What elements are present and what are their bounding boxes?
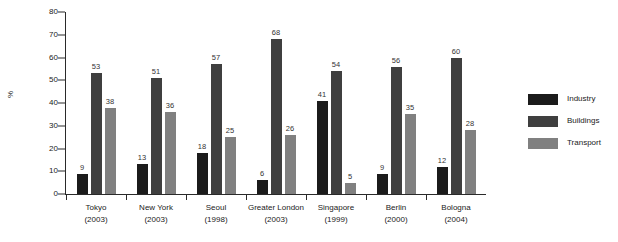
x-axis-category-label: Tokyo(2003) (84, 202, 107, 226)
bar-buildings[interactable]: 60 (451, 58, 462, 195)
bar-value-label: 28 (466, 120, 474, 128)
bar-buildings[interactable]: 54 (331, 71, 342, 194)
x-axis-tick-mark (426, 195, 427, 200)
x-axis-category-labels: Tokyo(2003)New York(2003)Seoul(1998)Grea… (66, 202, 486, 238)
bar-transport[interactable]: 25 (225, 137, 236, 194)
x-axis-category-label: New York(2003) (139, 202, 173, 226)
category-year: (2004) (441, 214, 470, 226)
y-axis-tick-label: 50 (22, 76, 58, 84)
category-year: (2000) (384, 214, 407, 226)
y-axis-tick-label: 0 (22, 190, 58, 198)
bar-value-label: 5 (348, 173, 352, 181)
bar-buildings[interactable]: 53 (91, 73, 102, 194)
y-axis-tick-label: 70 (22, 31, 58, 39)
bar-group: 41545 (317, 12, 356, 194)
x-axis-tick-mark (246, 195, 247, 200)
bar-industry[interactable]: 9 (77, 174, 88, 194)
x-axis-category-label: Bologna(2004) (441, 202, 470, 226)
y-axis-tick-mark (58, 57, 65, 58)
legend-swatch-icon (528, 138, 558, 149)
bar-value-label: 57 (212, 54, 220, 62)
x-axis-category-label: Seoul(1998) (204, 202, 227, 226)
category-year: (2003) (84, 214, 107, 226)
y-axis-tick-mark (58, 34, 65, 35)
y-axis-tick-mark (58, 80, 65, 81)
bar-buildings[interactable]: 57 (211, 64, 222, 194)
bar-transport[interactable]: 35 (405, 114, 416, 194)
legend-label: Transport (567, 138, 601, 148)
bar-value-label: 38 (106, 98, 114, 106)
bar-buildings[interactable]: 68 (271, 39, 282, 194)
category-name: Tokyo (84, 202, 107, 214)
bar-industry[interactable]: 9 (377, 174, 388, 194)
legend-item-buildings[interactable]: Buildings (528, 110, 614, 132)
y-axis-tick-mark (58, 12, 65, 13)
bar-value-label: 68 (272, 29, 280, 37)
category-year: (1999) (318, 214, 354, 226)
bar-industry[interactable]: 6 (257, 180, 268, 194)
y-axis-tick-mark (58, 125, 65, 126)
legend-item-industry[interactable]: Industry (528, 88, 614, 110)
bar-value-label: 60 (452, 48, 460, 56)
category-name: Greater London (248, 202, 304, 214)
bar-industry[interactable]: 41 (317, 101, 328, 194)
bar-group: 135136 (137, 12, 176, 194)
category-name: New York (139, 202, 173, 214)
y-axis-tick-mark (58, 103, 65, 104)
category-name: Berlin (384, 202, 407, 214)
bar-industry[interactable]: 12 (437, 167, 448, 194)
bar-industry[interactable]: 13 (137, 164, 148, 194)
bar-value-label: 51 (152, 68, 160, 76)
y-axis-tick-label: 60 (22, 54, 58, 62)
bar-buildings[interactable]: 56 (391, 67, 402, 194)
legend-swatch-icon (528, 94, 558, 105)
bar-group: 66826 (257, 12, 296, 194)
legend-label: Buildings (567, 116, 599, 126)
bar-value-label: 35 (406, 104, 414, 112)
x-axis-tick-mark (366, 195, 367, 200)
bar-transport[interactable]: 28 (465, 130, 476, 194)
y-axis-tick-label: 80 (22, 8, 58, 16)
legend-item-transport[interactable]: Transport (528, 132, 614, 154)
x-axis-tick-mark (66, 195, 67, 200)
x-axis-category-label: Singapore(1999) (318, 202, 354, 226)
x-axis-tick-mark (186, 195, 187, 200)
bar-value-label: 54 (332, 61, 340, 69)
bar-industry[interactable]: 18 (197, 153, 208, 194)
bar-value-label: 18 (198, 143, 206, 151)
category-name: Bologna (441, 202, 470, 214)
x-axis-tick-mark (126, 195, 127, 200)
legend-label: Industry (567, 94, 595, 104)
x-axis-tick-mark (306, 195, 307, 200)
bar-buildings[interactable]: 51 (151, 78, 162, 194)
bar-group: 126028 (437, 12, 476, 194)
bar-transport[interactable]: 38 (105, 108, 116, 194)
category-year: (1998) (204, 214, 227, 226)
y-axis-title: % (6, 91, 15, 98)
x-axis-line (65, 194, 486, 195)
category-year: (2003) (139, 214, 173, 226)
bar-value-label: 13 (138, 154, 146, 162)
bar-value-label: 53 (92, 63, 100, 71)
chart-legend: IndustryBuildingsTransport (528, 88, 614, 154)
bar-value-label: 25 (226, 127, 234, 135)
category-year: (2003) (248, 214, 304, 226)
bar-value-label: 6 (260, 170, 264, 178)
y-axis-tick-mark (58, 171, 65, 172)
x-axis-category-label: Greater London(2003) (248, 202, 304, 226)
plot-area: 95338135136185725668264154595635126028 (66, 12, 486, 194)
y-axis-tick-label: 10 (22, 167, 58, 175)
bar-group: 95635 (377, 12, 416, 194)
y-axis-tick-label: 40 (22, 99, 58, 107)
bar-transport[interactable]: 5 (345, 183, 356, 194)
y-axis-tick-mark (58, 148, 65, 149)
bar-transport[interactable]: 36 (165, 112, 176, 194)
bar-group: 185725 (197, 12, 236, 194)
y-axis-tick-label: 30 (22, 122, 58, 130)
y-axis-tick-marks (58, 12, 65, 194)
bar-group: 95338 (77, 12, 116, 194)
bar-chart: % 80706050403020100 95338135136185725668… (0, 0, 618, 242)
bar-transport[interactable]: 26 (285, 135, 296, 194)
legend-swatch-icon (528, 116, 558, 127)
bar-value-label: 41 (318, 91, 326, 99)
